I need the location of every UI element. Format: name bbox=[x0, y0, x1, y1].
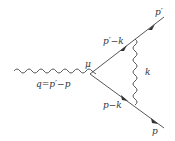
lower-internal-label: p−k bbox=[103, 101, 122, 110]
vertex-label: μ bbox=[85, 60, 91, 69]
external-photon-label: q=p′−p bbox=[36, 80, 70, 89]
outgoing-label: p′ bbox=[155, 8, 163, 17]
upper-internal-label: p′−k bbox=[103, 37, 124, 46]
upper-fermion-line bbox=[90, 17, 164, 74]
internal-photon-line bbox=[133, 39, 137, 105]
arrow-icon bbox=[121, 95, 128, 101]
feynman-diagram: μ q=p′−p p′−k p−k p′ p k bbox=[0, 0, 175, 141]
incoming-label: p bbox=[152, 127, 158, 136]
internal-photon-label: k bbox=[145, 68, 150, 77]
external-photon-line bbox=[14, 69, 96, 74]
